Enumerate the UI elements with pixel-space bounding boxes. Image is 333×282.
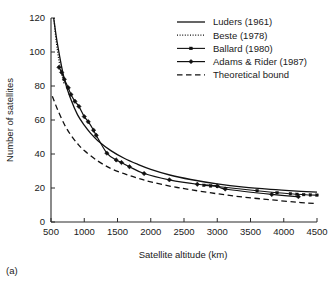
legend-item: Adams & Rider (1987) [177,56,307,67]
y-tick-label: 20 [34,182,45,193]
data-point [119,160,123,164]
y-tick-label: 60 [34,114,45,125]
series-line [52,96,317,203]
y-tick-label: 120 [29,12,45,23]
series-line [54,18,317,192]
x-tick-label: 1500 [107,226,128,237]
data-point [195,182,199,186]
data-point [57,65,61,69]
legend-label: Theoretical bound [213,69,289,80]
y-tick-label: 40 [34,148,45,159]
y-axis-ticks [51,18,55,222]
legend-label: Luders (1961) [213,16,272,27]
axes-group: 50010001500200025003000350040004500 0204… [29,12,327,237]
x-tick-label: 4000 [273,226,294,237]
x-axis-tick-labels: 50010001500200025003000350040004500 [43,226,328,237]
data-point [302,193,305,196]
series-adams-rider [57,65,301,199]
x-tick-label: 2000 [140,226,161,237]
x-tick-label: 500 [43,226,59,237]
y-tick-label: 100 [29,46,45,57]
data-point [127,165,131,169]
legend-item: Beste (1978) [177,30,267,41]
legend-item: Ballard (1980) [177,43,273,54]
data-point [256,189,259,192]
data-point [142,171,146,175]
series-theoretical-bound [52,96,317,203]
x-tick-label: 1000 [74,226,95,237]
data-point [289,192,292,195]
data-point [167,178,171,182]
legend-item: Theoretical bound [177,69,289,80]
legend-marker [189,59,193,63]
legend-label: Ballard (1980) [213,43,273,54]
x-axis-label: Satellite altitude (km) [139,249,228,260]
x-tick-label: 3500 [240,226,261,237]
legend-label: Adams & Rider (1987) [213,56,307,67]
chart-legend: Luders (1961)Beste (1978)Ballard (1980)A… [177,16,307,80]
legend-label: Beste (1978) [213,30,267,41]
y-axis-tick-labels: 020406080100120 [29,12,45,227]
data-point [309,194,312,197]
y-tick-label: 0 [40,216,45,227]
legend-marker [190,47,193,50]
x-axis-ticks [51,218,317,222]
x-tick-label: 4500 [306,226,327,237]
x-tick-label: 2500 [173,226,194,237]
data-point [316,194,319,197]
legend-item: Luders (1961) [177,16,272,27]
y-axis-label: Number of satellites [4,78,15,162]
satellite-altitude-chart: 50010001500200025003000350040004500 0204… [0,0,333,282]
figure-panel: 50010001500200025003000350040004500 0204… [0,0,333,282]
x-tick-label: 3000 [207,226,228,237]
data-series-group [52,18,318,204]
y-tick-label: 80 [34,80,45,91]
figure-caption: (a) [6,265,18,276]
series-luders [54,18,317,192]
data-point [276,191,279,194]
